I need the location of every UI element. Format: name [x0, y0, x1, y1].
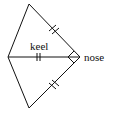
edge-bottom-left: [8, 57, 29, 108]
keel-label: keel: [30, 40, 48, 52]
kite-diagram: keel nose: [0, 0, 113, 116]
tick-bottom-edge: [49, 80, 59, 89]
nose-label: nose: [84, 51, 104, 63]
edge-top-left: [8, 4, 29, 57]
